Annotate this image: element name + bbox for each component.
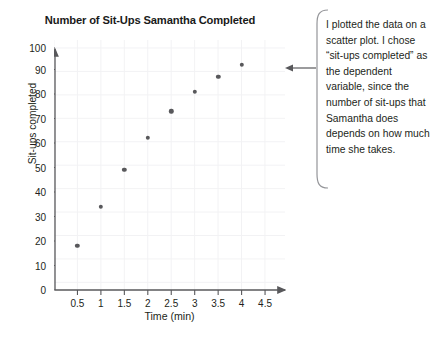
y-tick-label-30: 30	[14, 211, 46, 222]
x-tick-label-4: 4	[239, 298, 245, 309]
callout-box: I plotted the data on a scatter plot. I …	[314, 8, 432, 190]
x-axis-title: Time (min)	[54, 310, 285, 322]
x-tick-label-4-5: 4.5	[258, 298, 272, 309]
x-tick-label-2: 2	[145, 298, 151, 309]
y-tick-label-20: 20	[14, 236, 46, 247]
x-tick-label-3: 3	[192, 298, 198, 309]
callout-text: I plotted the data on a scatter plot. I …	[326, 17, 432, 157]
x-tick-label-1-5: 1.5	[117, 298, 131, 309]
chart-panel: Number of Sit-Ups Samantha Completed	[0, 0, 300, 339]
chart-title: Number of Sit-Ups Samantha Completed	[0, 14, 300, 26]
callout-pointer-arrow	[285, 60, 317, 76]
y-tick-label-0: 0	[14, 285, 46, 296]
plot-area: 0 10 20 30 40 50 60 70 80 90 100 0.5 1 1…	[54, 40, 285, 290]
y-axis-title: Sit-ups completed	[27, 44, 38, 204]
chart-axes	[54, 40, 294, 298]
y-tick-label-10: 10	[14, 260, 46, 271]
x-tick-label-3-5: 3.5	[211, 298, 225, 309]
x-tick-label-2-5: 2.5	[164, 298, 178, 309]
x-tick-label-1: 1	[98, 298, 104, 309]
x-tick-label-0-5: 0.5	[70, 298, 84, 309]
